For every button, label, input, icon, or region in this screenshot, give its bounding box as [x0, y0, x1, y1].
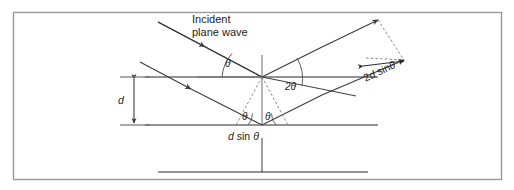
incident-wave-label: Incident plane wave [192, 13, 248, 39]
diagram-canvas [0, 0, 514, 190]
path-difference-lower-label: d sin θ [228, 130, 259, 142]
theta-lower-left-label: θ [242, 111, 247, 123]
figure-border [14, 13, 502, 180]
theta-incident-label: θ [225, 58, 230, 70]
d-spacing-label: d [118, 94, 124, 106]
bragg-diffraction-figure: Incident plane wave θ 2θ θ θ d d sin θ 2… [0, 0, 514, 190]
path-difference-lower-sin: sin [237, 130, 250, 142]
theta-lower-right-label: θ [265, 111, 270, 123]
two-theta-label: 2θ [285, 81, 296, 93]
incident-wave-label-line2: plane wave [192, 26, 248, 39]
path-difference-lower-theta: θ [253, 130, 259, 142]
incident-wave-label-line1: Incident [192, 13, 248, 26]
